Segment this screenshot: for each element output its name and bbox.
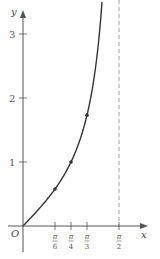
data-point [85,113,89,117]
tan-curve [23,2,102,226]
x-tick-label-den: 6 [53,243,58,251]
y-axis-label: y [10,6,17,17]
y-tick-label: 2 [9,93,15,104]
x-tick-label-num: π [116,233,122,241]
y-tick-label: 1 [9,157,15,168]
x-tick-label-den: 3 [85,243,89,251]
x-tick-label-den: 4 [69,243,74,251]
data-point [53,187,57,191]
x-tick-label-num: π [68,233,74,241]
y-tick-label: 3 [9,29,15,40]
x-tick-label-den: 2 [117,243,121,251]
tan-graph: 123 π6π4π3π2 y x O [0,0,160,259]
origin-label: O [11,228,19,239]
x-axis-label: x [141,229,147,240]
highlighted-points [53,113,89,191]
x-tick-label-num: π [84,233,90,241]
data-point [69,160,73,164]
y-ticks: 123 [9,29,27,168]
y-axis-arrow-icon [20,10,26,18]
x-tick-label-num: π [52,233,58,241]
